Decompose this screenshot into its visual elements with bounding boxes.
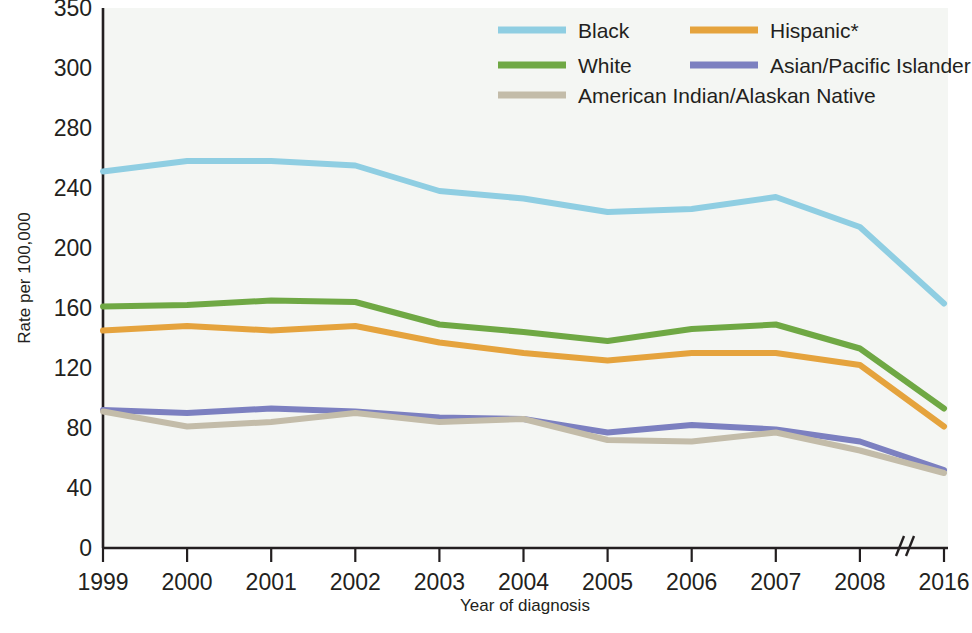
x-tick-label: 2005 bbox=[582, 569, 633, 595]
y-tick-label: 200 bbox=[54, 235, 92, 261]
x-axis-ticks: 1999200020012002200320042005200620072008… bbox=[77, 548, 969, 595]
line-chart: 04080120160200240280300350 1999200020012… bbox=[0, 0, 972, 633]
x-axis-title: Year of diagnosis bbox=[460, 596, 590, 615]
x-tick-label: 2002 bbox=[330, 569, 381, 595]
legend-label: Asian/Pacific Islander bbox=[770, 54, 971, 77]
y-tick-label: 280 bbox=[54, 115, 92, 141]
legend-label: White bbox=[578, 54, 632, 77]
y-tick-label: 120 bbox=[54, 355, 92, 381]
y-tick-label: 80 bbox=[66, 415, 92, 441]
y-tick-label: 0 bbox=[79, 535, 92, 561]
x-tick-label: 2008 bbox=[834, 569, 885, 595]
y-tick-label: 240 bbox=[54, 175, 92, 201]
x-tick-label: 2000 bbox=[162, 569, 213, 595]
x-tick-label: 2003 bbox=[414, 569, 465, 595]
y-tick-label: 160 bbox=[54, 295, 92, 321]
y-tick-label: 40 bbox=[66, 475, 92, 501]
x-tick-label: 2016 bbox=[918, 569, 969, 595]
legend-label: American Indian/Alaskan Native bbox=[578, 84, 876, 107]
x-tick-label: 2006 bbox=[666, 569, 717, 595]
y-axis-title: Rate per 100,000 bbox=[15, 212, 34, 343]
x-tick-label: 1999 bbox=[77, 569, 128, 595]
y-tick-label: 350 bbox=[54, 0, 92, 21]
chart-canvas: 04080120160200240280300350 1999200020012… bbox=[0, 0, 972, 633]
x-tick-label: 2001 bbox=[246, 569, 297, 595]
legend-label: Black bbox=[578, 19, 630, 42]
legend-label: Hispanic* bbox=[770, 19, 859, 42]
x-tick-label: 2004 bbox=[498, 569, 549, 595]
x-tick-label: 2007 bbox=[750, 569, 801, 595]
y-tick-label: 300 bbox=[54, 55, 92, 81]
y-axis-ticks: 04080120160200240280300350 bbox=[54, 0, 92, 561]
